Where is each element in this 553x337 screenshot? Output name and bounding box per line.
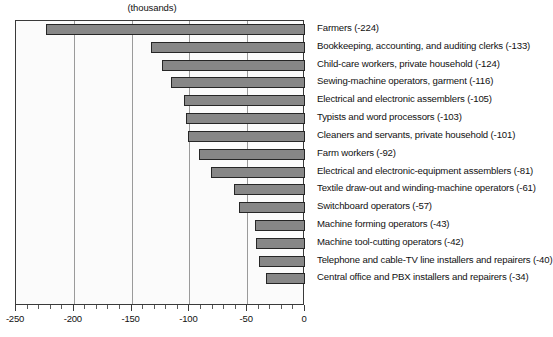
- bar-row: [16, 57, 303, 75]
- bar: [151, 42, 305, 53]
- chart-units-caption: (thousands): [0, 2, 304, 13]
- minor-tick: [281, 305, 282, 309]
- minor-tick: [212, 305, 213, 309]
- axis-tick-label: -200: [64, 313, 82, 324]
- bar: [234, 184, 305, 195]
- minor-tick: [200, 305, 201, 309]
- major-tick: [73, 305, 74, 311]
- bar-row: [16, 235, 303, 253]
- minor-tick: [50, 305, 51, 309]
- major-tick: [131, 305, 132, 311]
- axis-tick-label: -150: [121, 313, 139, 324]
- bar-row: [16, 128, 303, 146]
- bar: [211, 167, 305, 178]
- minor-tick: [154, 305, 155, 309]
- major-tick: [246, 305, 247, 311]
- bar: [199, 149, 305, 160]
- bar-row: [16, 270, 303, 288]
- category-label: Textile draw-out and winding-machine ope…: [317, 182, 536, 193]
- bar-row: [16, 110, 303, 128]
- bar-row: [16, 74, 303, 92]
- bar-row: [16, 181, 303, 199]
- bar: [259, 256, 305, 267]
- category-label: Farm workers (-92): [317, 147, 396, 158]
- bar: [162, 60, 305, 71]
- bar-row: [16, 253, 303, 271]
- major-tick: [15, 305, 16, 311]
- category-label: Farmers (-224): [317, 22, 379, 33]
- category-label: Central office and PBX installers and re…: [317, 271, 529, 282]
- minor-tick: [27, 305, 28, 309]
- category-label: Sewing-machine operators, garment (-116): [317, 75, 493, 86]
- minor-tick: [96, 305, 97, 309]
- major-tick: [304, 305, 305, 311]
- minor-tick: [165, 305, 166, 309]
- bar-row: [16, 92, 303, 110]
- bar: [184, 95, 305, 106]
- category-label: Typists and word processors (-103): [317, 111, 462, 122]
- bar-row: [16, 21, 303, 39]
- minor-tick: [292, 305, 293, 309]
- minor-tick: [258, 305, 259, 309]
- category-label: Machine tool-cutting operators (-42): [317, 236, 464, 247]
- plot-area: [15, 20, 304, 305]
- minor-tick: [269, 305, 270, 309]
- bar-row: [16, 199, 303, 217]
- bar-row: [16, 146, 303, 164]
- minor-tick: [107, 305, 108, 309]
- bar: [255, 220, 305, 231]
- axis-tick-label: -100: [179, 313, 197, 324]
- category-label: Bookkeeping, accounting, and auditing cl…: [317, 40, 530, 51]
- major-tick: [188, 305, 189, 311]
- minor-tick: [38, 305, 39, 309]
- category-label: Electrical and electronic assemblers (-1…: [317, 93, 492, 104]
- category-label: Switchboard operators (-57): [317, 200, 432, 211]
- bar: [46, 24, 305, 35]
- bar-row: [16, 217, 303, 235]
- category-label: Electrical and electronic-equipment asse…: [317, 165, 533, 176]
- bars-layer: [16, 21, 303, 304]
- category-label: Cleaners and servants, private household…: [317, 129, 515, 140]
- bar-row: [16, 39, 303, 57]
- minor-tick: [235, 305, 236, 309]
- minor-tick: [61, 305, 62, 309]
- bar: [266, 273, 305, 284]
- x-axis-labels: -250-200-150-100-500: [0, 313, 330, 329]
- minor-tick: [223, 305, 224, 309]
- axis-tick-label: -50: [240, 313, 253, 324]
- bar: [188, 131, 305, 142]
- category-label: Child-care workers, private household (-…: [317, 58, 500, 69]
- bar: [239, 202, 305, 213]
- minor-tick: [142, 305, 143, 309]
- axis-tick-label: -250: [6, 313, 24, 324]
- category-label: Machine forming operators (-43): [317, 218, 449, 229]
- category-label: Telephone and cable-TV line installers a…: [317, 254, 553, 265]
- category-labels: Farmers (-224)Bookkeeping, accounting, a…: [312, 20, 550, 305]
- minor-tick: [177, 305, 178, 309]
- x-axis-ticks: [15, 305, 304, 312]
- minor-tick: [84, 305, 85, 309]
- bar-row: [16, 164, 303, 182]
- minor-tick: [119, 305, 120, 309]
- bar: [171, 77, 305, 88]
- axis-tick-label: 0: [301, 313, 306, 324]
- bar: [256, 238, 305, 249]
- bar: [186, 113, 305, 124]
